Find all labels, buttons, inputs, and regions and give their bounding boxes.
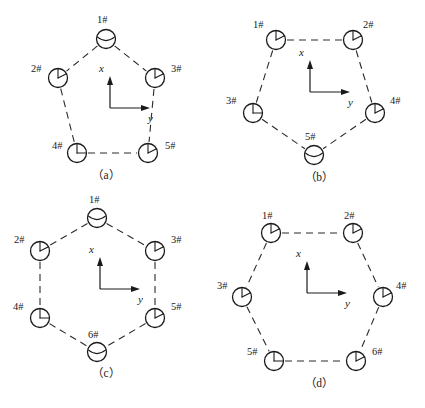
x-axis-label: x xyxy=(89,243,94,255)
polygon-edge xyxy=(115,46,147,71)
node-label-3: 3# xyxy=(171,63,182,74)
polygon-edge xyxy=(50,224,88,246)
node-label-5: 5# xyxy=(305,131,316,142)
node-label-4: 4# xyxy=(52,140,63,151)
node-label-2: 2# xyxy=(344,210,355,221)
node-label-4: 4# xyxy=(390,95,401,106)
node-4-glyph xyxy=(366,104,385,123)
node-label-1: 1# xyxy=(253,19,264,30)
y-axis-label: y xyxy=(138,293,143,305)
coordinate-axes xyxy=(304,261,347,296)
node-label-2: 2# xyxy=(14,234,25,245)
polygon-edge xyxy=(360,307,378,351)
node-6-glyph xyxy=(88,343,107,362)
panel-b: 1#2#3#4#5#xy（b） xyxy=(213,0,425,204)
node-label-3: 3# xyxy=(171,234,182,245)
x-axis-label: x xyxy=(299,46,304,58)
node-label-5: 5# xyxy=(165,140,176,151)
y-axis-arrowhead-icon xyxy=(141,105,150,111)
panel-c: 1#2#3#4#5#6#xy（c） xyxy=(0,204,212,408)
y-axis-label: y xyxy=(345,297,350,309)
x-axis-arrowhead-icon xyxy=(304,261,310,270)
polygon-edge xyxy=(323,119,366,149)
node-label-1: 1# xyxy=(262,210,273,221)
panel-caption-b: （b） xyxy=(213,168,425,184)
panel-a: 1#2#3#4#5#xy（a） xyxy=(0,0,212,204)
node-2-glyph xyxy=(31,242,50,261)
panel-caption-a: （a） xyxy=(0,166,212,182)
polygon-edge xyxy=(262,119,305,149)
x-axis-arrowhead-icon xyxy=(107,76,113,85)
polygon-edge xyxy=(67,46,98,71)
polygon-edges xyxy=(247,233,379,361)
x-axis-label: x xyxy=(99,62,104,74)
node-1-glyph xyxy=(267,31,286,50)
node-label-1: 1# xyxy=(89,194,100,205)
node-label-2: 2# xyxy=(363,19,374,30)
node-label-6: 6# xyxy=(372,346,383,357)
panel-caption-d: （d） xyxy=(213,374,425,390)
polygon-edges xyxy=(40,223,155,346)
polygon-edge xyxy=(107,223,146,245)
node-4-glyph xyxy=(68,144,87,163)
node-label-4: 4# xyxy=(13,301,24,312)
x-axis-arrowhead-icon xyxy=(307,60,313,69)
coordinate-axes xyxy=(107,76,150,111)
figure-container: 1#2#3#4#5#xy（a） 1#2#3#4#5#xy（b） 1#2#3#4#… xyxy=(0,0,425,408)
node-4-glyph xyxy=(31,309,50,328)
node-2-glyph xyxy=(49,69,68,88)
x-axis-arrowhead-icon xyxy=(97,257,103,266)
node-label-4: 4# xyxy=(396,280,407,291)
node-2-glyph xyxy=(344,31,363,50)
polygon-edge xyxy=(247,243,267,287)
node-1-glyph xyxy=(97,30,116,49)
y-axis-arrowhead-icon xyxy=(131,286,140,292)
node-5-glyph xyxy=(265,352,284,371)
node-2-glyph xyxy=(344,224,363,243)
polygon-edge xyxy=(358,243,379,287)
polygon-edge xyxy=(106,324,145,347)
coordinate-axes xyxy=(307,60,350,95)
node-label-3: 3# xyxy=(217,280,228,291)
y-axis-label: y xyxy=(348,96,353,108)
node-3-glyph xyxy=(233,288,252,307)
node-label-5: 5# xyxy=(247,346,258,357)
x-axis-label: x xyxy=(296,247,301,259)
node-5-glyph xyxy=(305,146,324,165)
node-6-glyph xyxy=(347,352,366,371)
node-label-3: 3# xyxy=(226,95,237,106)
y-axis-arrowhead-icon xyxy=(341,89,350,95)
panel-d: 1#2#3#4#5#6#xy（d） xyxy=(213,204,425,408)
node-3-glyph xyxy=(146,242,165,261)
y-axis-label: y xyxy=(148,112,153,124)
polygon-edge xyxy=(49,324,87,347)
node-3-glyph xyxy=(244,104,263,123)
polygon-edge xyxy=(256,50,272,102)
node-1-glyph xyxy=(88,209,107,228)
node-3-glyph xyxy=(146,69,165,88)
coordinate-axes xyxy=(97,257,140,292)
polygon-edges xyxy=(61,46,154,153)
node-4-glyph xyxy=(374,288,393,307)
node-1-glyph xyxy=(262,224,281,243)
node-5-glyph xyxy=(139,144,158,163)
node-label-6: 6# xyxy=(88,329,99,340)
polygon-edge xyxy=(61,89,75,143)
y-axis-arrowhead-icon xyxy=(338,290,347,296)
node-label-5: 5# xyxy=(171,301,182,312)
node-label-1: 1# xyxy=(97,14,108,25)
polygon-edge xyxy=(356,51,372,103)
node-5-glyph xyxy=(146,309,165,328)
panel-caption-c: （c） xyxy=(0,364,212,380)
node-label-2: 2# xyxy=(31,63,42,74)
polygon-edge xyxy=(247,307,269,351)
